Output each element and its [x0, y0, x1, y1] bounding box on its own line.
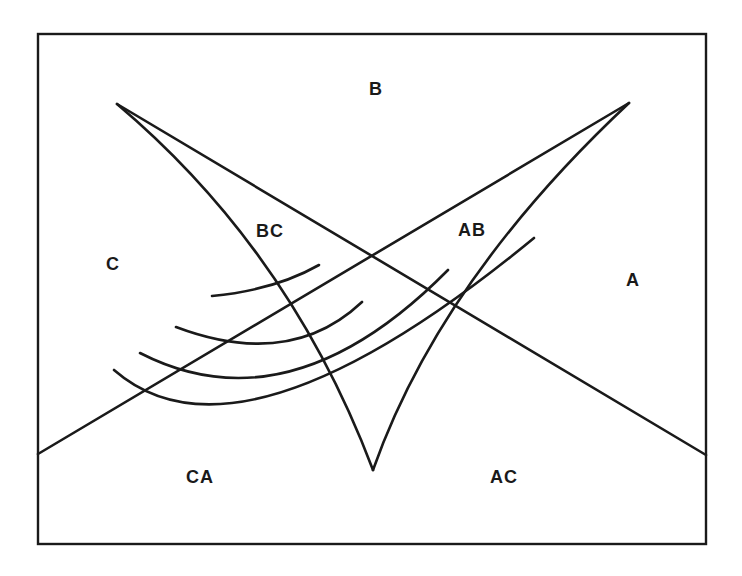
region-label-b: B [369, 79, 383, 99]
region-label-bc: BC [256, 221, 284, 241]
region-label-a: A [626, 270, 640, 290]
region-label-ac: AC [490, 467, 518, 487]
arc-2 [176, 302, 362, 344]
cusp-diagram: B C A BC AB CA AC [0, 0, 742, 576]
ab-cusp-curve [373, 103, 629, 470]
region-label-c: C [106, 254, 120, 274]
bc-cusp-curve [117, 104, 373, 470]
bc-straight-line [117, 104, 706, 455]
arc-1 [212, 265, 319, 296]
ab-straight-line [38, 103, 629, 454]
arc-3 [140, 270, 448, 378]
region-label-ab: AB [458, 220, 486, 240]
arc-4 [114, 238, 534, 404]
region-label-ca: CA [186, 467, 214, 487]
